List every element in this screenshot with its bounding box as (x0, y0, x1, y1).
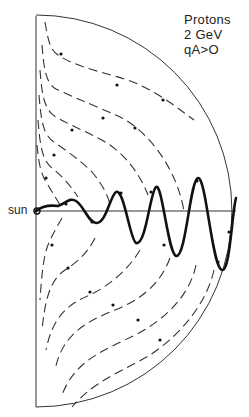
legend-energy: 2 GeV (184, 27, 231, 42)
drift-streamline (46, 250, 140, 350)
drift-streamline (42, 238, 95, 330)
arrow-marker-icon (227, 230, 230, 233)
arrow-marker-icon (161, 98, 164, 101)
arrow-marker-icon (50, 243, 53, 246)
drift-trajectory-diagram (0, 0, 249, 417)
sun-label: sun (8, 203, 27, 217)
legend-polarity: qA>O (184, 42, 231, 57)
arrow-marker-icon (133, 126, 136, 129)
drift-streamline (62, 265, 196, 395)
drift-streamline (42, 45, 184, 211)
drift-streamlines-upper (37, 22, 194, 211)
drift-streamline (37, 145, 60, 205)
arrow-marker-icon (115, 83, 118, 86)
direction-arrow-markers (44, 52, 230, 341)
arrow-marker-icon (70, 128, 73, 131)
drift-streamlines-lower (40, 218, 214, 407)
arrow-marker-icon (88, 290, 91, 293)
arrow-marker-icon (44, 176, 47, 179)
figure-legend: Protons 2 GeV qA>O (184, 12, 231, 57)
arrow-marker-icon (216, 260, 219, 263)
arrow-marker-icon (64, 202, 67, 205)
arrow-marker-icon (119, 191, 122, 194)
arrow-marker-icon (90, 220, 93, 223)
arrow-marker-icon (158, 338, 161, 341)
drift-streamline (72, 270, 214, 407)
arrow-marker-icon (162, 243, 165, 246)
arrow-marker-icon (66, 266, 69, 269)
arrow-marker-icon (59, 52, 62, 55)
arrow-marker-icon (136, 318, 139, 321)
arrow-marker-icon (52, 153, 55, 156)
legend-particle: Protons (184, 12, 231, 27)
arrow-marker-icon (195, 179, 198, 182)
arrow-marker-icon (111, 303, 114, 306)
arrow-marker-icon (101, 116, 104, 119)
drift-streamline (40, 218, 62, 300)
drift-streamline (45, 22, 194, 120)
arrow-marker-icon (149, 190, 152, 193)
